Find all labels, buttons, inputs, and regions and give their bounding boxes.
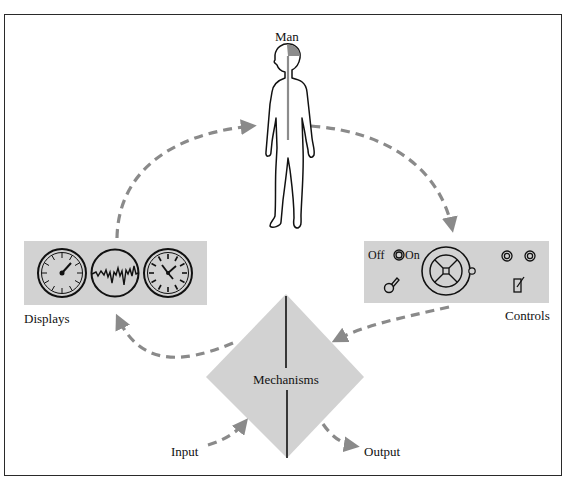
arrow-mechanisms-to-displays bbox=[118, 318, 233, 357]
arrow-input-to-mechanisms bbox=[208, 422, 245, 445]
human-figure-icon bbox=[266, 44, 314, 228]
input-label: Input bbox=[171, 445, 198, 458]
arrow-man-to-controls bbox=[311, 126, 452, 228]
man-machine-system-diagram: Man Displays Controls Off On Mechanisms … bbox=[0, 0, 569, 482]
switch-off-label: Off bbox=[368, 249, 384, 261]
diagram-canvas bbox=[0, 0, 569, 482]
brain-icon bbox=[287, 45, 300, 56]
clock-gauge-icon bbox=[144, 249, 192, 297]
displays-panel bbox=[24, 241, 207, 305]
controls-panel bbox=[364, 241, 549, 303]
dial-gauge-icon bbox=[38, 249, 86, 297]
arrow-controls-to-mechanisms bbox=[336, 307, 449, 340]
mechanisms-label: Mechanisms bbox=[253, 373, 319, 386]
controls-label: Controls bbox=[505, 309, 550, 322]
arrow-displays-to-man bbox=[117, 126, 252, 238]
arrow-mechanisms-to-output bbox=[323, 424, 355, 446]
switch-on-label: On bbox=[405, 249, 420, 261]
displays-label: Displays bbox=[24, 312, 70, 325]
man-label: Man bbox=[275, 30, 299, 43]
output-label: Output bbox=[364, 445, 400, 458]
